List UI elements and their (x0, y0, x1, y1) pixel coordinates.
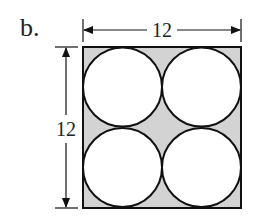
circle-bottom-right (162, 128, 241, 207)
circle-top-right (162, 48, 241, 127)
width-dimension: 12 (83, 19, 241, 42)
height-label: 12 (56, 118, 76, 140)
square-with-four-circles-diagram: b. 12 12 (0, 0, 255, 220)
circle-top-left (83, 48, 162, 127)
height-dimension: 12 (55, 47, 78, 208)
width-label: 12 (152, 19, 172, 41)
circle-bottom-left (83, 128, 162, 207)
part-label: b. (20, 13, 40, 42)
